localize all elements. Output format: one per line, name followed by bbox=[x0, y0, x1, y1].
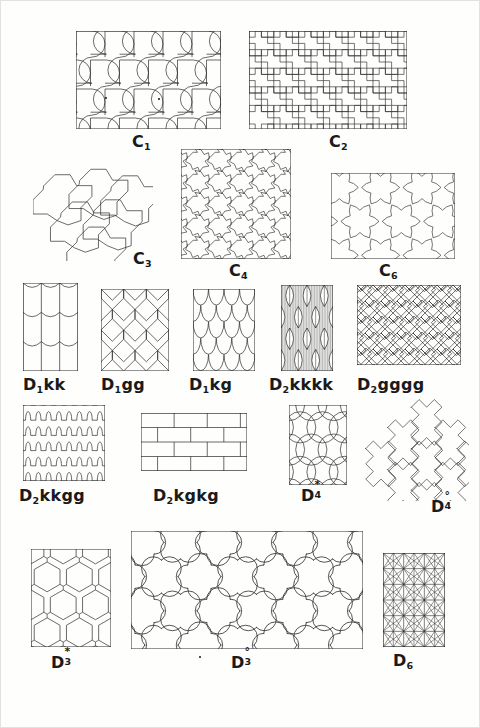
tiling-pattern-dense-triangular-star-lattice bbox=[383, 553, 445, 647]
tiling-figure-c4 bbox=[181, 149, 291, 259]
figure-label-c1: C1 bbox=[132, 134, 151, 150]
figure-label-d1kg: D1kg bbox=[189, 377, 232, 393]
label-base: C bbox=[229, 261, 241, 280]
label-script-stack: *3 bbox=[65, 653, 74, 668]
label-subscript: 4 bbox=[315, 490, 322, 500]
label-base: D bbox=[23, 375, 37, 394]
tiling-pattern-wavy-bands bbox=[23, 405, 105, 481]
tiling-figure-d2kkkk bbox=[281, 285, 333, 371]
label-subscript: 2 bbox=[283, 384, 290, 395]
tiling-figure-d3star bbox=[31, 549, 111, 647]
label-subscript: 4 bbox=[241, 270, 248, 281]
tiling-pattern-herringbone bbox=[357, 285, 461, 365]
figure-label-c6: C6 bbox=[379, 263, 398, 279]
tiling-pattern-four-fold-star-tiles bbox=[181, 149, 291, 259]
label-subscript: 6 bbox=[391, 270, 398, 281]
figure-label-c4: C4 bbox=[229, 263, 248, 279]
tiling-figure-d2kgkg bbox=[141, 413, 247, 471]
tiling-pattern-six-fold-star-tiles bbox=[331, 173, 455, 259]
tiling-plate: C1C2C3C4C6D1kkD1ggD1kgD2kkkkD2ggggD2kkgg… bbox=[0, 0, 480, 728]
figure-label-d2kgkg: D2kgkg bbox=[153, 488, 219, 504]
tiling-figure-d3circ bbox=[131, 531, 363, 649]
figure-label-d3star: D*3 bbox=[51, 653, 74, 671]
figure-label-c2: C2 bbox=[329, 134, 348, 150]
label-base: D bbox=[301, 486, 315, 505]
label-suffix: gggg bbox=[378, 375, 425, 394]
figure-label-d6: D6 bbox=[393, 653, 414, 669]
label-subscript: 1 bbox=[144, 141, 151, 152]
label-base: D bbox=[51, 653, 65, 672]
tiling-pattern-clover-trefoil-tiles bbox=[131, 531, 363, 649]
label-suffix: kg bbox=[210, 375, 233, 394]
label-base: D bbox=[189, 375, 203, 394]
tiling-figure-d2kkgg bbox=[23, 405, 105, 481]
label-base: C bbox=[132, 132, 144, 151]
label-suffix: kgkg bbox=[174, 486, 219, 505]
label-subscript: 3 bbox=[145, 258, 152, 269]
figure-label-d3circ: D°3 bbox=[231, 653, 254, 671]
tiling-figure-d4circ bbox=[359, 397, 469, 501]
label-base: D bbox=[269, 375, 283, 394]
tiling-pattern-zigzag-step-tiles bbox=[249, 31, 407, 129]
tiling-pattern-running-bond-brick bbox=[141, 413, 247, 471]
label-base: D bbox=[153, 486, 167, 505]
label-subscript: 1 bbox=[37, 384, 44, 395]
figure-label-d4star: D*4 bbox=[301, 486, 324, 504]
label-subscript: 1 bbox=[115, 384, 122, 395]
tiling-figure-c1 bbox=[76, 31, 221, 129]
figure-label-d4circ: D°4 bbox=[431, 497, 454, 515]
tiling-pattern-fish-scale bbox=[193, 289, 255, 371]
tiling-pattern-lens-diamond-hatched bbox=[281, 285, 333, 371]
label-script-stack: °4 bbox=[445, 497, 454, 512]
label-base: C bbox=[329, 132, 341, 151]
label-suffix: gg bbox=[122, 375, 146, 394]
label-base: C bbox=[133, 249, 145, 268]
tiling-pattern-vertical-strip-arcs bbox=[23, 283, 78, 371]
tiling-pattern-cross-fractal-cluster bbox=[359, 397, 469, 501]
tiling-pattern-glide-pentagon-tiles bbox=[101, 289, 169, 371]
label-base: D bbox=[357, 375, 371, 394]
tiling-figure-d1gg bbox=[101, 289, 169, 371]
tiling-figure-d6 bbox=[383, 553, 445, 647]
scan-speck bbox=[105, 97, 107, 99]
label-suffix: kkgg bbox=[40, 486, 85, 505]
figure-label-d2kkgg: D2kkgg bbox=[19, 488, 85, 504]
label-subscript: 4 bbox=[445, 501, 452, 511]
figure-label-d1gg: D1gg bbox=[101, 377, 145, 393]
label-base: D bbox=[431, 497, 445, 516]
tiling-figure-c3 bbox=[33, 166, 153, 261]
tiling-pattern-triangular-cluster-hex-tiles bbox=[33, 166, 153, 261]
scan-speck bbox=[158, 98, 160, 100]
figure-label-d1kk: D1kk bbox=[23, 377, 65, 393]
tiling-figure-c6 bbox=[331, 173, 455, 259]
label-base: C bbox=[379, 261, 391, 280]
tiling-figure-d1kk bbox=[23, 283, 78, 371]
label-suffix: kkkk bbox=[290, 375, 334, 394]
label-subscript: 3 bbox=[65, 657, 72, 667]
label-subscript: 3 bbox=[245, 657, 252, 667]
tiling-figure-d1kg bbox=[193, 289, 255, 371]
label-subscript: 2 bbox=[371, 384, 378, 395]
figure-label-c3: C3 bbox=[133, 251, 152, 267]
label-base: D bbox=[231, 653, 245, 672]
label-script-stack: *4 bbox=[315, 486, 324, 501]
label-script-stack: °3 bbox=[245, 653, 254, 668]
label-base: D bbox=[101, 375, 115, 394]
tiling-pattern-petal-circle-lattice bbox=[289, 405, 347, 485]
scan-speck bbox=[199, 656, 201, 658]
label-base: D bbox=[19, 486, 33, 505]
tiling-figure-d2gggg bbox=[357, 285, 461, 365]
label-base: D bbox=[393, 651, 407, 670]
tiling-figure-c2 bbox=[249, 31, 407, 129]
label-subscript: 2 bbox=[33, 495, 40, 506]
label-subscript: 2 bbox=[167, 495, 174, 506]
tiling-pattern-honeycomb-hexagons bbox=[31, 549, 111, 647]
label-subscript: 6 bbox=[407, 660, 414, 671]
tiling-pattern-hook-arc-tiles bbox=[76, 31, 221, 129]
figure-label-d2kkkk: D2kkkk bbox=[269, 377, 333, 393]
figure-label-d2gggg: D2gggg bbox=[357, 377, 425, 393]
tiling-figure-d4star bbox=[289, 405, 347, 485]
label-suffix: kk bbox=[44, 375, 66, 394]
label-subscript: 2 bbox=[341, 141, 348, 152]
label-subscript: 1 bbox=[203, 384, 210, 395]
